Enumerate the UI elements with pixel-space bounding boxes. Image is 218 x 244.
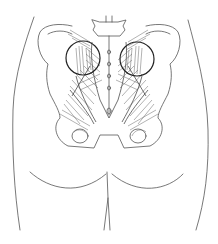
left-obturator xyxy=(72,129,88,143)
gluteal-cleft xyxy=(104,172,110,230)
gluteal-fold-left xyxy=(30,172,106,188)
body-outline-left xyxy=(13,17,34,230)
right-ligaments xyxy=(116,30,158,143)
body-outline-right xyxy=(188,20,208,230)
right-obturator xyxy=(130,129,146,143)
gluteal-fold-right xyxy=(112,174,183,188)
pelvis-drawing xyxy=(0,0,218,244)
spinous-process xyxy=(106,16,112,22)
vertebra-l5 xyxy=(92,20,126,36)
right-iliac-inner xyxy=(146,31,170,34)
left-iliac-inner xyxy=(48,31,72,34)
anatomical-illustration xyxy=(0,0,218,244)
